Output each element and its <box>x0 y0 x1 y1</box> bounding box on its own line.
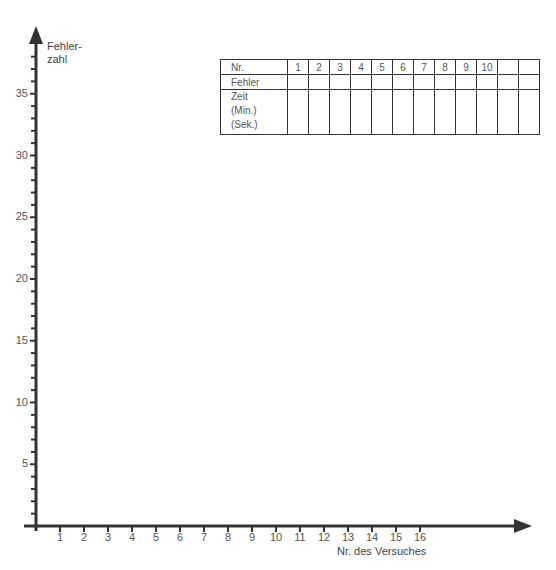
label-line: (Sek.) <box>231 118 287 132</box>
y-tick-label: 35 <box>6 87 28 99</box>
table-cell[interactable] <box>519 75 540 90</box>
table-cell[interactable]: 7 <box>414 60 435 75</box>
table-cell[interactable]: 3 <box>330 60 351 75</box>
table-cell[interactable]: 10 <box>477 60 498 75</box>
table-cell[interactable] <box>288 90 309 135</box>
table-cell[interactable] <box>498 75 519 90</box>
table-cell[interactable]: 4 <box>351 60 372 75</box>
y-tick-label: 20 <box>6 272 28 284</box>
table-row-label: Fehler <box>221 75 288 90</box>
y-axis-title: Fehler- zahl <box>47 40 82 66</box>
x-tick-label: 2 <box>74 531 94 543</box>
table-cell[interactable]: 6 <box>393 60 414 75</box>
y-axis-title-line1: Fehler- <box>47 40 82 53</box>
table-cell[interactable] <box>456 90 477 135</box>
x-axis-arrow-icon <box>514 519 532 533</box>
table-row-label: Zeit (Min.) (Sek.) <box>221 90 288 135</box>
table-cell[interactable] <box>330 90 351 135</box>
table-cell[interactable]: 1 <box>288 60 309 75</box>
table-cell[interactable] <box>351 75 372 90</box>
x-tick-label: 6 <box>170 531 190 543</box>
label-line: (Min.) <box>231 104 287 118</box>
table-cell[interactable] <box>393 75 414 90</box>
x-tick-label: 16 <box>410 531 430 543</box>
table-cell[interactable]: 8 <box>435 60 456 75</box>
table-cell[interactable]: 5 <box>372 60 393 75</box>
y-tick-label: 5 <box>6 457 28 469</box>
x-tick-label: 13 <box>338 531 358 543</box>
table-cell[interactable] <box>477 90 498 135</box>
table-cell[interactable] <box>435 90 456 135</box>
y-tick-label: 25 <box>6 210 28 222</box>
x-tick-label: 14 <box>362 531 382 543</box>
x-tick-label: 12 <box>314 531 334 543</box>
data-table: Nr. 1 2 3 4 5 6 7 8 9 10 Fehler Zeit (Mi… <box>220 59 540 135</box>
label-line: Zeit <box>231 90 287 104</box>
x-tick-label: 11 <box>290 531 310 543</box>
table-cell[interactable] <box>330 75 351 90</box>
x-axis-title: Nr. des Versuches <box>337 545 426 558</box>
x-tick-label: 7 <box>194 531 214 543</box>
table-cell[interactable] <box>372 90 393 135</box>
table-cell[interactable] <box>519 60 540 75</box>
x-tick-label: 8 <box>218 531 238 543</box>
table-cell[interactable] <box>414 90 435 135</box>
table-cell[interactable] <box>372 75 393 90</box>
table-row-zeit: Zeit (Min.) (Sek.) <box>221 90 540 135</box>
table-cell[interactable] <box>414 75 435 90</box>
table-cell[interactable] <box>477 75 498 90</box>
table-cell[interactable]: 9 <box>456 60 477 75</box>
x-tick-label: 9 <box>242 531 262 543</box>
table-cell[interactable] <box>456 75 477 90</box>
table-row-label: Nr. <box>221 60 288 75</box>
x-tick-label: 3 <box>98 531 118 543</box>
table-cell[interactable]: 2 <box>309 60 330 75</box>
table-row-fehler: Fehler <box>221 75 540 90</box>
table-cell[interactable] <box>393 90 414 135</box>
table-cell[interactable] <box>435 75 456 90</box>
y-tick-label: 15 <box>6 334 28 346</box>
table-cell[interactable] <box>351 90 372 135</box>
table-cell[interactable] <box>309 75 330 90</box>
table-cell[interactable] <box>519 90 540 135</box>
y-tick-label: 10 <box>6 396 28 408</box>
x-tick-label: 4 <box>122 531 142 543</box>
y-tick-label: 30 <box>6 149 28 161</box>
table-cell[interactable] <box>288 75 309 90</box>
x-tick-label: 5 <box>146 531 166 543</box>
table-cell[interactable] <box>498 90 519 135</box>
table-row-nr: Nr. 1 2 3 4 5 6 7 8 9 10 <box>221 60 540 75</box>
table-cell[interactable] <box>498 60 519 75</box>
x-tick-label: 1 <box>50 531 70 543</box>
x-tick-label: 15 <box>386 531 406 543</box>
x-tick-label: 10 <box>266 531 286 543</box>
y-axis-arrow-icon <box>29 26 43 44</box>
y-axis-title-line2: zahl <box>47 53 82 66</box>
table-cell[interactable] <box>309 90 330 135</box>
